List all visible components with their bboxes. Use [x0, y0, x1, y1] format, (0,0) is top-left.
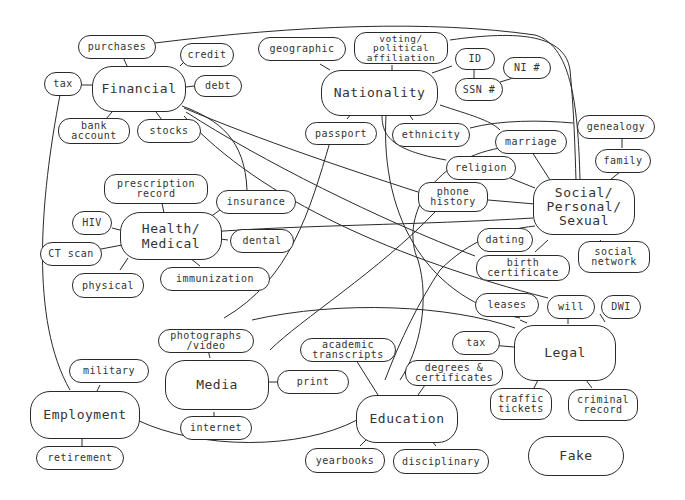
node-photographs-video[interactable]: photographs /video	[158, 329, 254, 353]
node-family[interactable]: family	[595, 149, 651, 173]
node-id[interactable]: ID	[455, 48, 495, 70]
node-voting-political-affiliation[interactable]: voting/ political affiliation	[354, 32, 448, 64]
node-ssn-number[interactable]: SSN #	[455, 78, 503, 101]
node-prescription-record[interactable]: prescription record	[104, 174, 208, 204]
hub-education[interactable]: Education	[356, 395, 458, 443]
hub-fake[interactable]: Fake	[528, 436, 624, 476]
hub-health-medical[interactable]: Health/ Medical	[120, 212, 222, 260]
hub-legal[interactable]: Legal	[514, 325, 616, 381]
node-religion[interactable]: religion	[446, 156, 516, 180]
hub-financial[interactable]: Financial	[92, 66, 186, 112]
node-dating[interactable]: dating	[477, 228, 533, 252]
node-genealogy[interactable]: genealogy	[577, 115, 655, 139]
node-immunization[interactable]: immunization	[160, 267, 270, 291]
node-marriage[interactable]: marriage	[495, 130, 567, 154]
node-physical[interactable]: physical	[72, 273, 144, 298]
node-degrees-certificates[interactable]: degrees & certificates	[405, 360, 503, 386]
node-stocks[interactable]: stocks	[137, 119, 201, 143]
node-bank-account[interactable]: bank account	[58, 118, 130, 144]
hub-media[interactable]: Media	[165, 360, 269, 410]
node-insurance[interactable]: insurance	[216, 190, 296, 214]
node-ethnicity[interactable]: ethnicity	[392, 123, 470, 147]
hub-social-personal-sexual[interactable]: Social/ Personal/ Sexual	[533, 179, 635, 235]
node-phone-history[interactable]: phone history	[418, 182, 488, 212]
node-passport[interactable]: passport	[305, 122, 377, 145]
data-category-mind-map: purchases credit tax Financial debt bank…	[0, 0, 685, 500]
node-dental[interactable]: dental	[230, 229, 294, 253]
node-yearbooks[interactable]: yearbooks	[305, 448, 385, 473]
node-geographic[interactable]: geographic	[258, 37, 346, 61]
node-military[interactable]: military	[69, 359, 149, 383]
node-leases[interactable]: leases	[475, 293, 539, 317]
node-criminal-record[interactable]: criminal record	[568, 389, 638, 421]
node-credit[interactable]: credit	[180, 43, 234, 67]
node-will[interactable]: will	[547, 295, 595, 319]
node-hiv[interactable]: HIV	[72, 211, 112, 235]
node-tax-legal[interactable]: tax	[452, 331, 500, 355]
node-ct-scan[interactable]: CT scan	[40, 242, 102, 266]
node-print[interactable]: print	[277, 370, 349, 394]
node-birth-certificate[interactable]: birth certificate	[476, 255, 570, 281]
hub-employment[interactable]: Employment	[30, 391, 140, 439]
node-academic-transcripts[interactable]: academic transcripts	[300, 338, 396, 362]
node-tax-financial[interactable]: tax	[44, 72, 82, 96]
node-ni-number[interactable]: NI #	[503, 57, 551, 79]
node-debt[interactable]: debt	[194, 75, 242, 97]
node-traffic-tickets[interactable]: traffic tickets	[490, 388, 552, 420]
hub-nationality[interactable]: Nationality	[321, 70, 438, 116]
node-social-network[interactable]: social network	[578, 241, 650, 273]
node-purchases[interactable]: purchases	[78, 35, 156, 59]
node-retirement[interactable]: retirement	[36, 446, 124, 470]
node-disciplinary[interactable]: disciplinary	[393, 449, 489, 474]
node-dwi[interactable]: DWI	[601, 295, 641, 319]
node-internet[interactable]: internet	[180, 416, 252, 440]
